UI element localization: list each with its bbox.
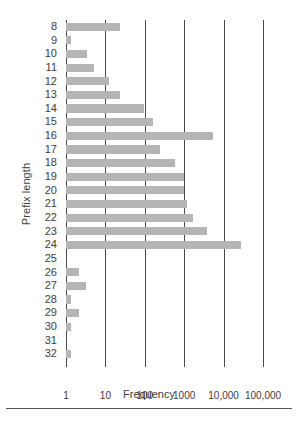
chart-row: 27 [66,279,263,292]
x-tick-mark [184,361,185,367]
y-tick-label: 11 [46,61,57,74]
chart-row: 11 [66,61,263,74]
chart-row: 24 [66,238,263,251]
y-tick-label: 18 [45,156,57,169]
chart-row: 31 [66,334,263,347]
chart-row: 29 [66,306,263,319]
chart-row: 30 [66,320,263,333]
y-tick-label: 32 [45,347,57,360]
y-tick-label: 17 [45,143,57,156]
bar [66,323,71,331]
chart-row: 12 [66,75,263,88]
bar [66,214,193,222]
chart-row: 17 [66,143,263,156]
y-tick-label: 23 [45,225,57,238]
y-tick-label: 10 [45,47,57,60]
chart-row: 32 [66,347,263,360]
y-tick-label: 9 [51,34,57,47]
y-tick-label: 22 [45,211,57,224]
x-axis-title: Frequency [0,388,298,400]
chart-row: 26 [66,266,263,279]
chart-row: 19 [66,170,263,183]
y-axis-title: Prefix length [20,124,32,264]
bar [66,77,109,85]
bar [66,186,184,194]
y-tick-label: 30 [45,320,57,333]
bar [66,295,71,303]
bar [66,23,120,31]
y-tick-label: 24 [45,238,57,251]
y-tick-label: 19 [45,170,57,183]
bar [66,241,241,249]
bar [66,118,153,126]
y-tick-label: 13 [45,88,57,101]
y-tick-label: 8 [51,20,57,33]
plot-area: 110100100010,000100,00089101112131415161… [66,20,263,361]
x-tick-mark [224,361,225,367]
y-tick-label: 15 [45,115,57,128]
chart-row: 8 [66,20,263,33]
x-gridline [263,20,264,361]
bar [66,309,79,317]
y-tick-label: 28 [45,293,57,306]
bar [66,91,120,99]
chart-row: 21 [66,197,263,210]
y-tick-label: 27 [45,279,57,292]
chart-row: 15 [66,115,263,128]
bar [66,64,94,72]
chart-row: 10 [66,47,263,60]
chart-row: 20 [66,184,263,197]
bar [66,282,86,290]
chart-row: 16 [66,129,263,142]
bar [66,268,79,276]
x-tick-mark [105,361,106,367]
bar [66,145,160,153]
bottom-divider [6,408,292,409]
y-tick-label: 12 [45,75,57,88]
bar [66,227,207,235]
chart-row: 18 [66,156,263,169]
chart-row: 14 [66,102,263,115]
x-tick-mark [66,361,67,367]
chart-row: 13 [66,88,263,101]
chart-figure: Prefix length 110100100010,000100,000891… [0,0,298,422]
y-tick-label: 29 [45,306,57,319]
bar [66,132,213,140]
chart-row: 9 [66,34,263,47]
x-tick-mark [145,361,146,367]
y-tick-label: 26 [45,266,57,279]
chart-row: 22 [66,211,263,224]
bar [66,173,184,181]
y-tick-label: 21 [45,197,57,210]
bar [66,50,87,58]
bar [66,36,71,44]
y-tick-label: 14 [45,102,57,115]
x-tick-mark [263,361,264,367]
y-tick-label: 16 [45,129,57,142]
y-tick-label: 20 [45,184,57,197]
bar [66,350,71,358]
chart-row: 23 [66,225,263,238]
bar [66,159,175,167]
chart-row: 28 [66,293,263,306]
y-tick-label: 31 [45,334,57,347]
y-tick-label: 25 [45,252,57,265]
bar [66,200,187,208]
bar [66,104,144,112]
chart-row: 25 [66,252,263,265]
